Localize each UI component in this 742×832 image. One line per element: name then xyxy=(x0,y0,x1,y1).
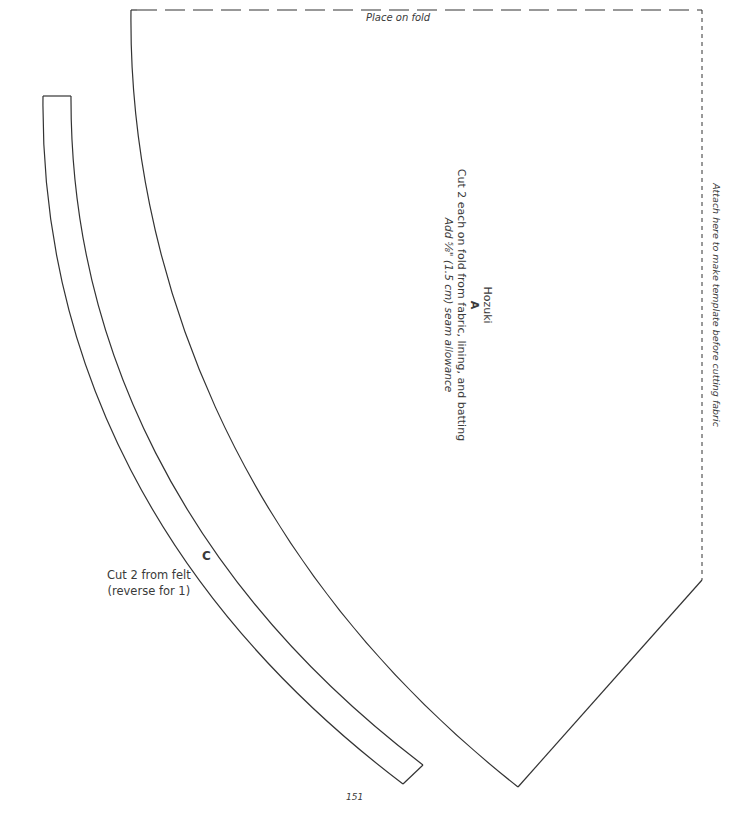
piece-a-outline xyxy=(131,10,702,787)
piece-c-cut-instruction: Cut 2 from felt (reverse for 1) xyxy=(107,567,191,599)
piece-c-outline xyxy=(43,96,423,784)
piece-letter-c: C xyxy=(202,549,211,563)
fold-label: Place on fold xyxy=(366,12,430,23)
felt-line-1: Cut 2 from felt xyxy=(107,567,191,583)
attach-note: Attach here to make template before cutt… xyxy=(711,183,722,427)
piece-a-label-block: Hozuki A Cut 2 each on fold from fabric,… xyxy=(442,169,494,441)
piece-letter-a: A xyxy=(468,169,481,441)
page-number: 151 xyxy=(346,792,363,802)
felt-line-2: (reverse for 1) xyxy=(107,583,191,599)
seam-allowance-note: Add ⅝" (1.5 cm) seam allowance xyxy=(442,169,455,441)
pattern-drawing xyxy=(0,0,742,832)
cut-instruction-a: Cut 2 each on fold from fabric, lining, … xyxy=(455,169,468,441)
pattern-name: Hozuki xyxy=(481,169,494,441)
